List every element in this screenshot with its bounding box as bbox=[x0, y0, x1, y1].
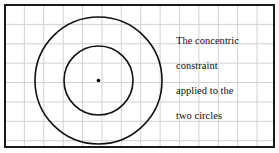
shared-center-point bbox=[97, 79, 101, 83]
annotation-line-3: applied to the bbox=[176, 85, 275, 97]
annotation-line-4: two circles bbox=[176, 110, 275, 122]
annotation-line-1: The concentric bbox=[176, 35, 275, 47]
figure-root: The concentric constraint applied to the… bbox=[0, 0, 279, 153]
annotation-text: The concentric constraint applied to the… bbox=[176, 23, 275, 135]
drawing-frame: The concentric constraint applied to the… bbox=[4, 4, 275, 148]
annotation-line-2: constraint bbox=[176, 60, 275, 72]
